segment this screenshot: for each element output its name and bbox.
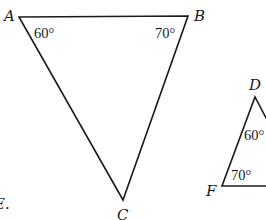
triangle-abc-outline (19, 16, 188, 200)
vertex-label-b: B (193, 7, 205, 25)
vertex-label-c: C (117, 206, 129, 220)
angle-label-f: 70° (231, 167, 252, 183)
angle-label-b: 70° (155, 25, 176, 41)
vertex-label-a: A (2, 7, 15, 25)
similar-triangles-diagram: A B C 60° 70° D F 60° 70° E. (0, 0, 266, 220)
triangle-def: D F 60° 70° (205, 76, 266, 200)
triangle-abc: A B C 60° 70° (2, 7, 205, 220)
vertex-label-d: D (248, 76, 261, 94)
angle-label-a: 60° (34, 25, 55, 41)
cropped-text-e: E. (0, 195, 10, 213)
angle-label-d: 60° (244, 127, 265, 143)
vertex-label-f: F (205, 182, 217, 200)
